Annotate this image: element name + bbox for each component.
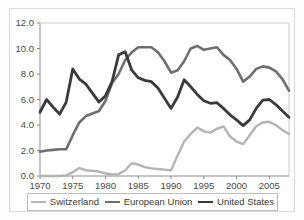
chart-plot-area: 0.02.04.06.08.010.012.0 1970197519801985… bbox=[0, 0, 304, 220]
x-tick-label: 1975 bbox=[62, 180, 83, 191]
y-tick-label: 8.0 bbox=[21, 68, 34, 79]
legend-swatch-switzerland bbox=[31, 201, 46, 203]
legend-label-switzerland: Switzerland bbox=[50, 197, 99, 207]
y-tick-label: 12.0 bbox=[16, 17, 35, 28]
chart-figure: 0.02.04.06.08.010.012.0 1970197519801985… bbox=[0, 0, 304, 220]
x-tick-label: 1995 bbox=[193, 180, 214, 191]
y-axis-ticks: 0.02.04.06.08.010.012.0 bbox=[16, 17, 41, 181]
legend-item-united-states[interactable]: United States bbox=[198, 197, 274, 207]
x-tick-label: 1990 bbox=[160, 180, 181, 191]
line-chart-svg: 0.02.04.06.08.010.012.0 1970197519801985… bbox=[0, 0, 304, 220]
x-tick-label: 1970 bbox=[29, 180, 50, 191]
x-tick-label: 1980 bbox=[95, 180, 116, 191]
legend-label-united-states: United States bbox=[217, 197, 274, 207]
legend-item-switzerland[interactable]: Switzerland bbox=[31, 197, 99, 207]
y-tick-label: 2.0 bbox=[21, 145, 34, 156]
x-axis-ticks: 19701975198019851990199520002005 bbox=[29, 176, 279, 191]
y-tick-label: 6.0 bbox=[21, 94, 34, 105]
y-tick-label: 10.0 bbox=[16, 43, 35, 54]
legend-label-european-union: European Union bbox=[124, 197, 193, 207]
legend-swatch-european-union bbox=[105, 201, 120, 203]
x-tick-label: 2005 bbox=[259, 180, 280, 191]
x-tick-label: 2000 bbox=[226, 180, 247, 191]
y-tick-label: 4.0 bbox=[21, 119, 34, 130]
legend-swatch-united-states bbox=[198, 201, 213, 203]
legend-item-european-union[interactable]: European Union bbox=[105, 197, 193, 207]
x-tick-label: 1985 bbox=[128, 180, 149, 191]
chart-legend: Switzerland European Union United States bbox=[27, 193, 278, 211]
